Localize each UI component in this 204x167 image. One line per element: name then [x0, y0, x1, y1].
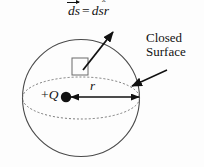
closed-surface-pointer-arrow: [132, 70, 167, 86]
point-charge-dot: [61, 92, 71, 102]
closed-surface-label: Closed Surface: [146, 31, 186, 58]
diagram-canvas: [0, 0, 204, 167]
r-hat-text: r: [104, 3, 109, 18]
charge-label: +Q: [41, 88, 58, 102]
gauss-law-diagram: ds=dŝr Closed Surface +Q r: [0, 0, 204, 167]
r-hat-symbol: ̂r: [104, 4, 109, 18]
normal-vector-arrow: [83, 32, 113, 70]
closed-surface-label-line1: Closed: [146, 31, 186, 45]
vector-arrow-overbar: [67, 2, 79, 3]
radius-label: r: [90, 79, 95, 93]
charge-symbol: Q: [49, 87, 59, 102]
differential-area-vector-equation: ds=dŝr: [68, 4, 109, 18]
charge-sign: +: [41, 87, 49, 102]
equals-sign: =: [80, 3, 92, 18]
closed-surface-label-line2: Surface: [146, 45, 186, 59]
ds-vector-symbol: ds: [68, 4, 80, 18]
ds-vector-text: ds: [68, 3, 80, 18]
ds-scalar-text: ds: [92, 3, 104, 18]
